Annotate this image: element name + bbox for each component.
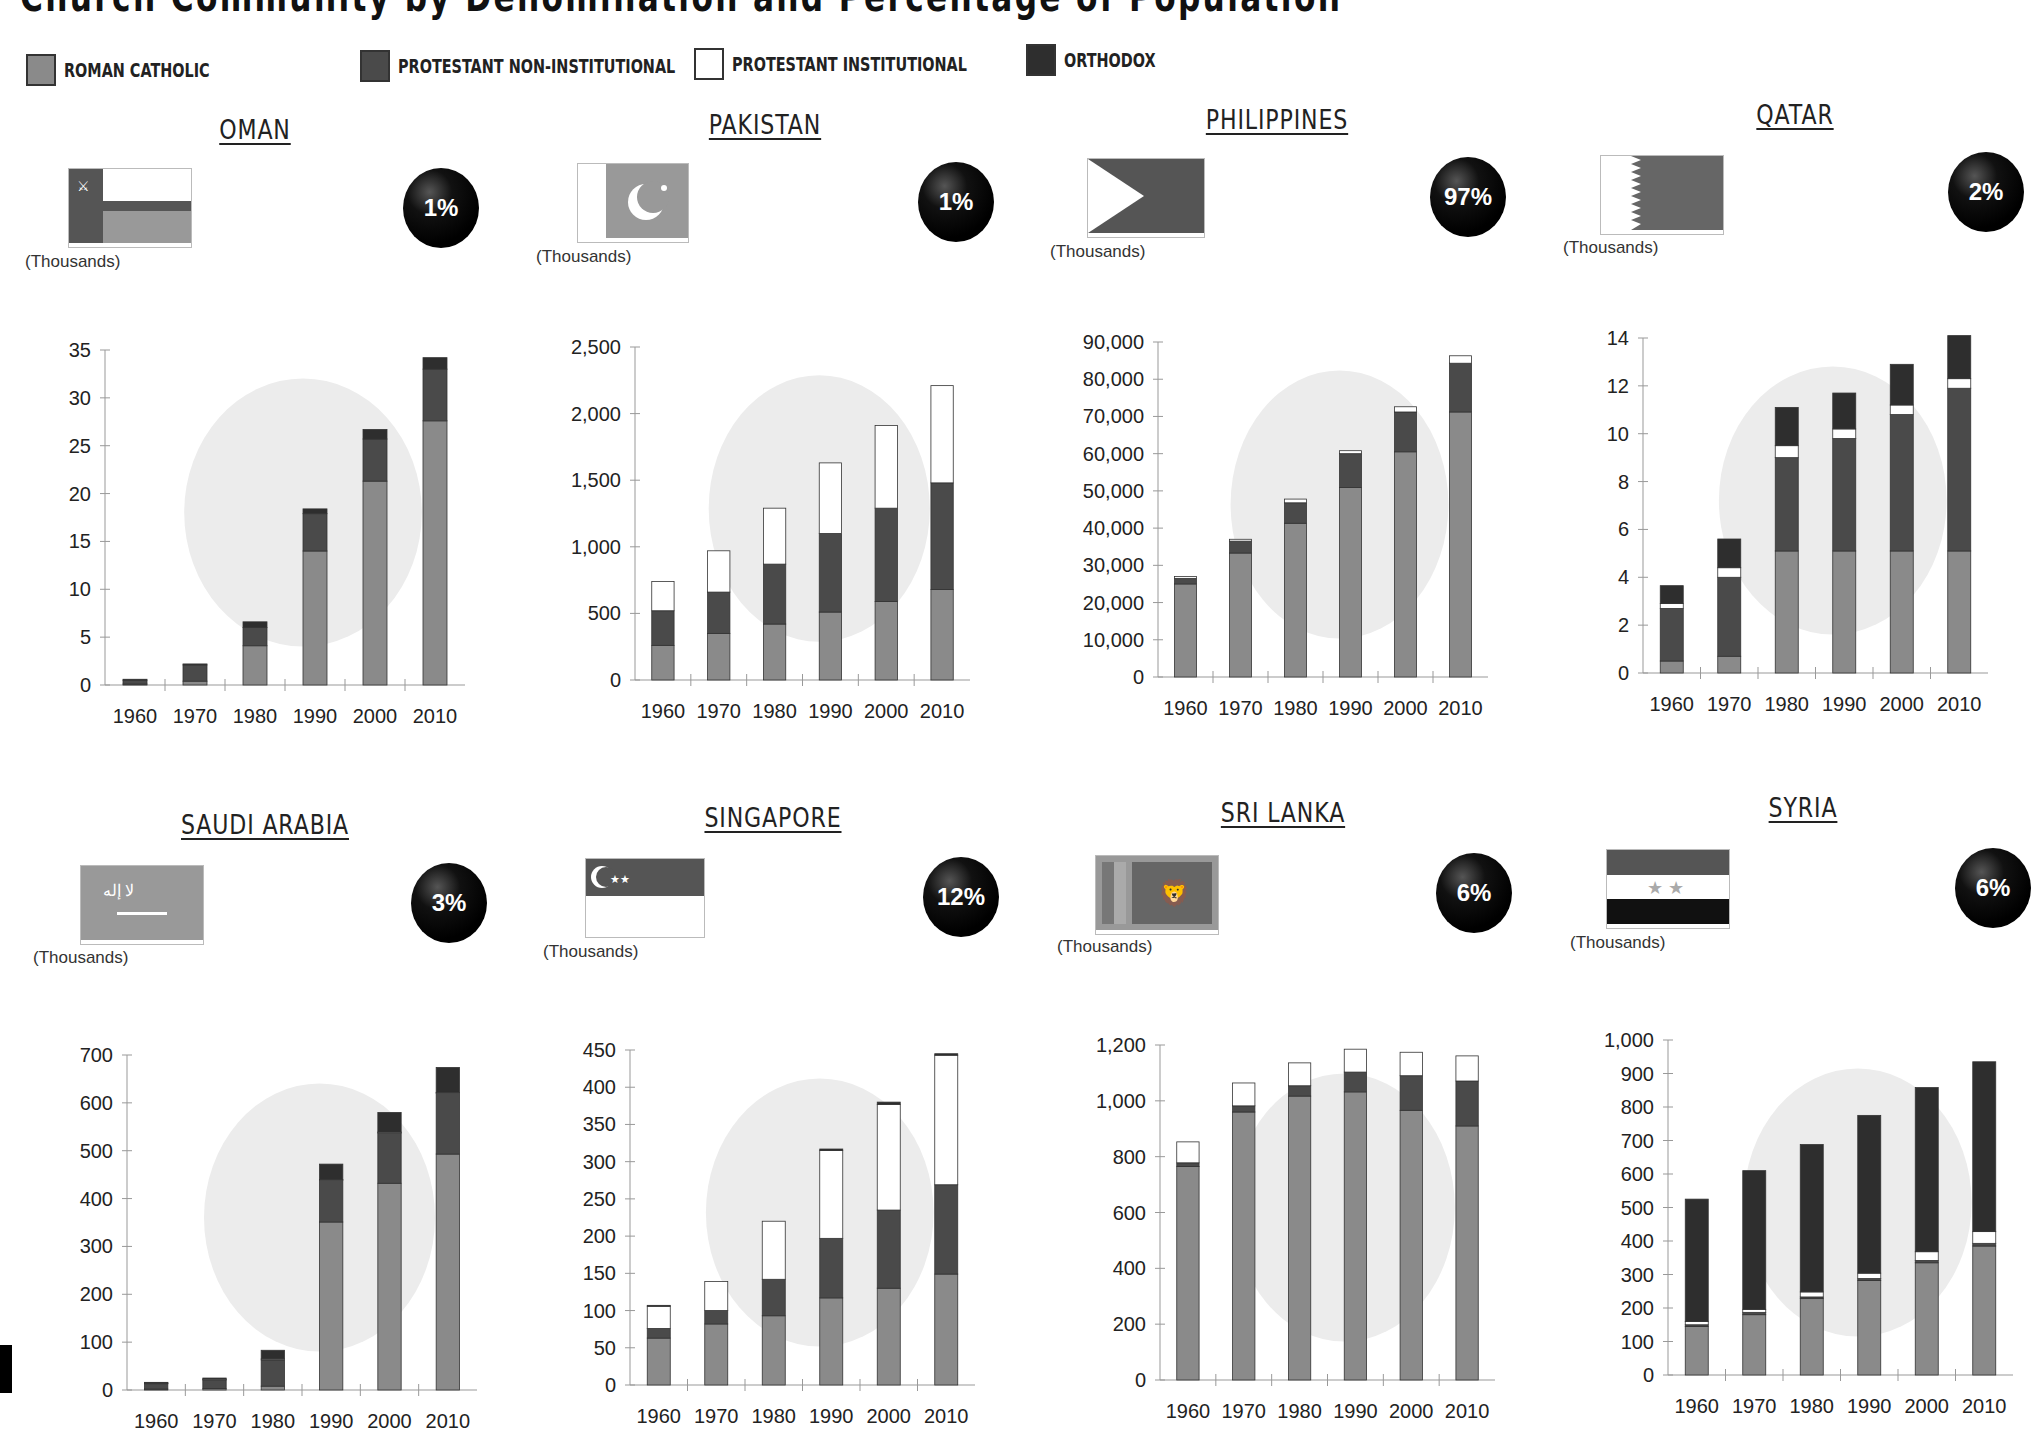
svg-text:1990: 1990 — [1328, 697, 1373, 719]
legend-item-roman-catholic: ROMAN CATHOLIC — [26, 54, 266, 86]
svg-text:1960: 1960 — [113, 705, 158, 727]
bar-segment-protestant-non-institutional — [877, 1210, 900, 1288]
svg-text:600: 600 — [1621, 1163, 1654, 1185]
bar-segment-roman-catholic — [1456, 1126, 1478, 1380]
bar-segment-roman-catholic — [1685, 1326, 1708, 1375]
bar-segment-protestant-non-institutional — [1175, 578, 1197, 584]
unit-label: (Thousands) — [33, 948, 128, 968]
svg-text:1980: 1980 — [1273, 697, 1318, 719]
bar-segment-roman-catholic — [1395, 452, 1417, 677]
bar-segment-protestant-institutional — [877, 1104, 900, 1210]
bar-segment-roman-catholic — [320, 1222, 343, 1390]
svg-text:0: 0 — [605, 1374, 616, 1396]
bar-segment-orthodox — [378, 1112, 401, 1132]
bar-chart-singapore: 0501001502002503003504004501960197019801… — [520, 1040, 985, 1440]
unit-label: (Thousands) — [1050, 242, 1145, 262]
bar-segment-protestant-institutional — [820, 1151, 843, 1239]
bar-segment-protestant-institutional — [1175, 577, 1197, 579]
svg-text:2000: 2000 — [1389, 1400, 1434, 1422]
bar-segment-orthodox — [877, 1102, 900, 1104]
bar-segment-roman-catholic — [820, 1298, 843, 1385]
svg-text:0: 0 — [1618, 662, 1629, 684]
bar-segment-protestant-institutional — [763, 508, 785, 564]
bar-segment-orthodox — [1858, 1115, 1881, 1273]
bar-segment-roman-catholic — [1775, 551, 1798, 673]
bar-segment-orthodox — [261, 1350, 284, 1359]
svg-text:600: 600 — [80, 1092, 113, 1114]
svg-text:400: 400 — [1621, 1230, 1654, 1252]
svg-text:50: 50 — [594, 1337, 616, 1359]
svg-text:70,000: 70,000 — [1083, 405, 1144, 427]
bar-segment-orthodox — [820, 1149, 843, 1150]
svg-text:15: 15 — [69, 530, 91, 552]
svg-text:400: 400 — [80, 1188, 113, 1210]
country-title-sri-lanka: SRI LANKA — [1088, 798, 1479, 828]
bar-segment-roman-catholic — [877, 1288, 900, 1385]
country-title-syria: SYRIA — [1608, 793, 1999, 823]
legend-item-orthodox: ORTHODOX — [1026, 44, 1191, 76]
bar-segment-protestant-institutional — [1230, 539, 1252, 541]
bar-segment-protestant-institutional — [1233, 1083, 1255, 1106]
pakistan-flag-icon — [577, 163, 689, 243]
svg-text:5: 5 — [80, 626, 91, 648]
bar-segment-orthodox — [1660, 586, 1683, 604]
bar-chart-qatar: 02468101214196019701980199020002010 — [1533, 328, 1998, 733]
page-edge-mark — [0, 1345, 12, 1393]
country-title-philippines: PHILIPPINES — [1082, 105, 1473, 135]
bar-segment-orthodox — [423, 358, 447, 369]
bar-segment-protestant-institutional — [1948, 379, 1971, 389]
bar-segment-protestant-institutional — [1340, 451, 1362, 454]
bar-segment-roman-catholic — [1800, 1299, 1823, 1375]
bar-segment-protestant-non-institutional — [708, 592, 730, 633]
svg-text:100: 100 — [1621, 1331, 1654, 1353]
svg-text:1970: 1970 — [1222, 1400, 1267, 1422]
svg-text:90,000: 90,000 — [1083, 331, 1144, 353]
bar-segment-roman-catholic — [261, 1386, 284, 1390]
bar-segment-protestant-non-institutional — [875, 508, 897, 601]
svg-text:2000: 2000 — [1880, 693, 1925, 715]
svg-text:800: 800 — [1113, 1146, 1146, 1168]
bar-segment-roman-catholic — [1890, 551, 1913, 673]
bar-segment-protestant-institutional — [1833, 429, 1856, 439]
bar-segment-protestant-non-institutional — [931, 483, 953, 590]
svg-text:500: 500 — [588, 602, 621, 624]
unit-label: (Thousands) — [1563, 238, 1658, 258]
bar-segment-protestant-institutional — [1177, 1142, 1199, 1163]
bar-segment-orthodox — [1775, 407, 1798, 445]
svg-text:2000: 2000 — [1383, 697, 1428, 719]
svg-text:1970: 1970 — [1218, 697, 1263, 719]
bar-segment-roman-catholic — [1233, 1112, 1255, 1380]
svg-text:10: 10 — [1607, 423, 1629, 445]
unit-label: (Thousands) — [25, 252, 120, 272]
svg-text:800: 800 — [1621, 1096, 1654, 1118]
bar-segment-orthodox — [1948, 336, 1971, 379]
bar-segment-protestant-non-institutional — [1660, 608, 1683, 661]
bar-segment-orthodox — [935, 1054, 958, 1055]
bar-chart-syria: 01002003004005006007008009001,0001960197… — [1558, 1030, 2023, 1435]
bar-segment-orthodox — [1718, 539, 1741, 568]
bar-segment-orthodox — [303, 509, 327, 514]
svg-text:🦁: 🦁 — [1158, 878, 1190, 908]
bar-segment-roman-catholic — [1743, 1315, 1766, 1375]
country-title-oman: OMAN — [60, 115, 451, 145]
svg-text:500: 500 — [1621, 1197, 1654, 1219]
legend-label: ORTHODOX — [1064, 48, 1156, 72]
bar-segment-roman-catholic — [303, 551, 327, 685]
svg-text:1,000: 1,000 — [1604, 1029, 1654, 1051]
qatar-flag-icon — [1600, 155, 1724, 235]
svg-text:2010: 2010 — [1962, 1395, 2007, 1417]
sri-lanka-flag-icon: 🦁 — [1095, 855, 1219, 935]
bar-segment-protestant-institutional — [931, 386, 953, 483]
svg-text:30: 30 — [69, 387, 91, 409]
svg-text:1,000: 1,000 — [571, 536, 621, 558]
svg-text:10: 10 — [69, 578, 91, 600]
bar-segment-protestant-non-institutional — [705, 1311, 728, 1324]
svg-text:1960: 1960 — [641, 700, 686, 722]
bar-segment-protestant-institutional — [652, 581, 674, 610]
svg-text:1980: 1980 — [1790, 1395, 1835, 1417]
svg-text:400: 400 — [583, 1076, 616, 1098]
swatch-protestant-non-institutional — [360, 50, 390, 82]
svg-text:1960: 1960 — [134, 1410, 179, 1432]
bar-segment-roman-catholic — [935, 1274, 958, 1385]
bar-segment-roman-catholic — [363, 481, 387, 685]
